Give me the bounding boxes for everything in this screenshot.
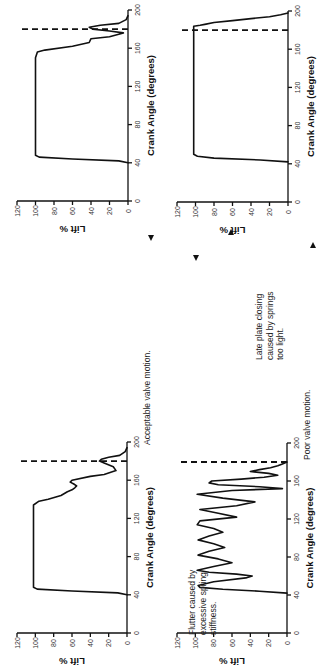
crank-tick-label: 120 (294, 81, 301, 93)
crank-tick-label: 40 (294, 160, 301, 168)
lift-tick-label: 80 (210, 639, 217, 647)
triangle-arrow-icon (148, 235, 154, 241)
lift-tick-label: 80 (51, 207, 58, 215)
crank-tick-label: 200 (293, 437, 300, 449)
lift-tick-label: 60 (69, 207, 76, 215)
lift-tick-label: 20 (105, 639, 112, 647)
lift-axis-title: Lift % (219, 656, 245, 667)
valve-lift-curve (197, 462, 287, 593)
annotation-text: Acceptable valve motion. (142, 351, 152, 446)
lift-tick-label: 60 (69, 639, 76, 647)
triangle-arrow-icon (193, 255, 199, 261)
crank-tick-label: 0 (133, 631, 140, 635)
annotation-poor: Poor valve motion. (302, 242, 316, 460)
crank-tick-label: 80 (134, 121, 141, 129)
lift-tick-label: 0 (125, 209, 132, 213)
annotation-text: Poor valve motion. (302, 390, 312, 460)
annotation-acceptable: Acceptable valve motion. (142, 235, 154, 445)
crank-tick-label: 0 (134, 199, 141, 203)
lift-tick-label: 0 (284, 641, 291, 645)
valve-lift-figure: 02040608010012004080120160200Crank Angle… (0, 0, 329, 672)
crank-tick-label: 120 (293, 513, 300, 525)
annotation-text: Late plate closingcaused by springstoo l… (254, 291, 285, 360)
lift-tick-label: 20 (106, 207, 113, 215)
lift-tick-label: 100 (32, 637, 39, 649)
lift-tick-label: 100 (192, 637, 199, 649)
chart-panel-poor-valve-motion-late-closing: 02040608010012004080120160200Crank Angle… (174, 5, 317, 236)
valve-lift-curve (36, 16, 129, 163)
lift-tick-label: 120 (174, 637, 181, 649)
lift-tick-label: 60 (229, 208, 236, 216)
lift-tick-label: 40 (247, 639, 254, 647)
crank-tick-label: 120 (134, 80, 141, 92)
chart-panel-acceptable-valve-motion-1: 02040608010012004080120160200Crank Angle… (14, 4, 157, 235)
annotation-flutter: Flutter caused byexcessive springstiffne… (187, 255, 218, 635)
crank-angle-axis-title: Crank Angle (degrees) (305, 56, 316, 157)
lift-tick-label: 60 (229, 639, 236, 647)
lift-tick-label: 80 (50, 639, 57, 647)
lift-tick-label: 40 (87, 639, 94, 647)
crank-tick-label: 0 (293, 631, 300, 635)
lift-tick-label: 40 (88, 207, 95, 215)
crank-angle-axis-title: Crank Angle (degrees) (144, 487, 155, 588)
lift-tick-label: 120 (14, 637, 21, 649)
lift-tick-label: 100 (32, 205, 39, 217)
crank-tick-label: 160 (133, 474, 140, 486)
lift-tick-label: 20 (265, 639, 272, 647)
crank-tick-label: 200 (134, 4, 141, 16)
crank-tick-label: 80 (293, 553, 300, 561)
crank-tick-label: 40 (134, 159, 141, 167)
lift-tick-label: 120 (14, 205, 21, 217)
crank-tick-label: 80 (133, 553, 140, 561)
lift-tick-label: 100 (192, 206, 199, 218)
crank-tick-label: 120 (133, 512, 140, 524)
crank-tick-label: 0 (294, 200, 301, 204)
crank-tick-label: 200 (133, 436, 140, 448)
annotation-text: Flutter caused byexcessive springstiffne… (187, 569, 218, 635)
crank-tick-label: 40 (293, 591, 300, 599)
valve-lift-curve (194, 13, 288, 162)
crank-tick-label: 40 (133, 591, 140, 599)
lift-tick-label: 40 (248, 208, 255, 216)
crank-tick-label: 160 (134, 42, 141, 54)
valve-lift-curve (34, 448, 128, 595)
lift-tick-label: 20 (266, 208, 273, 216)
triangle-arrow-icon (310, 242, 316, 248)
chart-panel-acceptable-valve-motion-2: 02040608010012004080120160200Crank Angle… (14, 436, 156, 667)
lift-tick-label: 80 (211, 208, 218, 216)
lift-tick-label: 0 (285, 210, 292, 214)
lift-axis-title: Lift % (59, 656, 85, 667)
crank-angle-axis-title: Crank Angle (degrees) (304, 487, 315, 588)
crank-tick-label: 200 (294, 5, 301, 17)
annotation-late: Late plate closingcaused by springstoo l… (228, 229, 285, 360)
crank-tick-label: 160 (294, 43, 301, 55)
lift-tick-label: 120 (174, 206, 181, 218)
crank-tick-label: 160 (293, 475, 300, 487)
crank-angle-axis-title: Crank Angle (degrees) (145, 55, 156, 156)
crank-tick-label: 80 (294, 122, 301, 130)
lift-axis-title: Lift % (59, 224, 85, 235)
lift-tick-label: 0 (124, 641, 131, 645)
